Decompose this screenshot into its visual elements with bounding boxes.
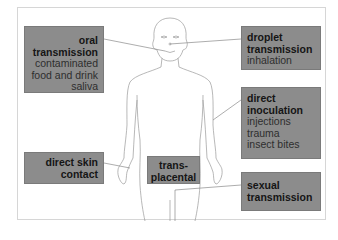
inoculation-item: injections (247, 116, 315, 128)
oral-title-1: oral (30, 35, 98, 47)
trans-title-1: trans- (150, 160, 197, 172)
droplet-title-1: droplet (247, 32, 315, 44)
skin-title-1: direct skin (30, 157, 98, 169)
inoculation-item: insect bites (247, 139, 315, 151)
direct-skin-contact-box: direct skin contact (24, 152, 104, 184)
droplet-transmission-box: droplet transmission inhalation (241, 26, 321, 70)
direct-inoculation-box: direct inoculation injections trauma ins… (241, 87, 321, 159)
skin-title-2: contact (30, 169, 98, 181)
droplet-item: inhalation (247, 55, 315, 67)
sexual-title-2: transmission (247, 192, 315, 204)
sexual-transmission-box: sexual transmission (241, 172, 321, 211)
trans-title-2: placental (150, 172, 197, 184)
oral-item: contaminated (30, 58, 98, 70)
oral-item: saliva (30, 81, 98, 93)
oral-transmission-box: oral transmission contaminated food and … (24, 26, 104, 93)
transplacental-box: trans- placental (147, 156, 200, 184)
inoculation-title-1: direct (247, 93, 315, 105)
sexual-title-1: sexual (247, 180, 315, 192)
